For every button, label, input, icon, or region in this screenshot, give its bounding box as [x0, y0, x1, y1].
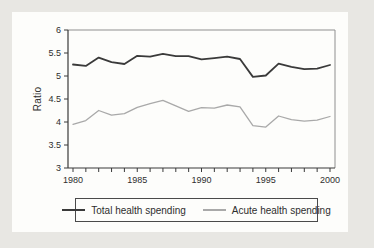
x-tick-label: 1990	[191, 175, 211, 185]
y-tick-label: 6	[56, 25, 61, 35]
y-axis-title: Ratio	[32, 87, 43, 111]
y-tick-label: 3	[56, 163, 61, 173]
legend-item-total: Total health spending	[62, 205, 186, 216]
x-tick-label: 1980	[63, 175, 83, 185]
x-tick-label: 1995	[256, 175, 276, 185]
acute-line-swatch	[203, 209, 226, 211]
total-health-spending-line	[73, 54, 330, 77]
legend-label-total: Total health spending	[91, 205, 186, 216]
legend: Total health spending Acute health spend…	[75, 198, 318, 222]
total-line-swatch	[62, 209, 85, 211]
acute-health-spending-line	[73, 100, 330, 127]
x-tick-label: 1985	[127, 175, 147, 185]
y-tick-label: 4.5	[48, 94, 61, 104]
legend-item-acute: Acute health spending	[203, 205, 331, 216]
y-tick-label: 3.5	[48, 140, 61, 150]
y-tick-label: 4	[56, 117, 61, 127]
y-tick-label: 5.5	[48, 48, 61, 58]
figure-page: 33.544.555.5619801985199019952000 Ratio …	[0, 0, 374, 248]
chart-panel: 33.544.555.5619801985199019952000 Ratio …	[12, 12, 348, 232]
y-tick-label: 5	[56, 71, 61, 81]
legend-label-acute: Acute health spending	[232, 205, 331, 216]
x-tick-label: 2000	[320, 175, 340, 185]
